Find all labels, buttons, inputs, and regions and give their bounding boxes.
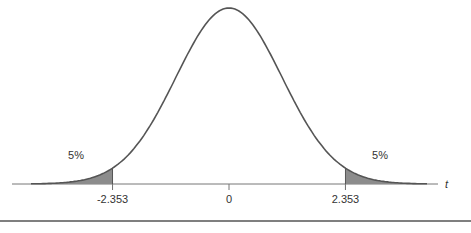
tick-label-left: -2.353 xyxy=(97,193,128,205)
tick-label-center: 0 xyxy=(226,193,232,205)
left-area-label: 5% xyxy=(68,149,84,161)
density-curve xyxy=(31,8,427,184)
tick-label-right: 2.353 xyxy=(332,193,360,205)
t-distribution-chart: -2.353 0 2.353 5% 5% t xyxy=(0,0,471,233)
right-area-label: 5% xyxy=(372,149,388,161)
x-axis-label: t xyxy=(445,178,449,190)
